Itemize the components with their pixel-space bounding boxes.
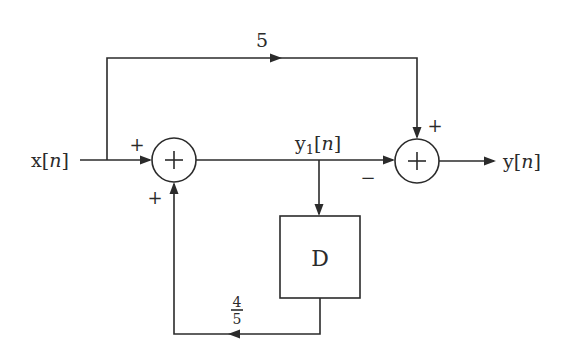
arrow-into-sum2-left bbox=[383, 156, 395, 165]
delay-block-label: D bbox=[311, 246, 329, 271]
summer-2 bbox=[395, 139, 439, 183]
sum1-input-sign-bottom: + bbox=[147, 187, 162, 208]
feedback-gain-label: 4 5 bbox=[231, 294, 243, 327]
feedforward-arrow bbox=[270, 54, 282, 63]
feedback-arrow bbox=[228, 330, 240, 339]
output-arrow bbox=[484, 157, 496, 166]
feedforward-path bbox=[107, 58, 417, 160]
sum2-input-sign-top: + bbox=[427, 115, 442, 136]
input-label: x[n] bbox=[31, 149, 69, 171]
arrow-into-delay bbox=[315, 204, 324, 216]
sum1-input-sign-top: + bbox=[129, 134, 144, 155]
arrow-into-sum2-top bbox=[413, 127, 422, 139]
feedback-gain-denominator: 5 bbox=[233, 311, 242, 327]
arrow-into-sum1 bbox=[140, 156, 152, 165]
feedback-gain-numerator: 4 bbox=[233, 294, 242, 310]
sum2-input-sign-left: − bbox=[360, 167, 375, 188]
intermediate-label: y1[n] bbox=[294, 132, 341, 157]
arrow-into-sum1-bottom bbox=[170, 182, 179, 194]
summer-1 bbox=[152, 138, 196, 182]
feedforward-gain-label: 5 bbox=[256, 29, 268, 51]
block-diagram: x[n] 5 + + y1[n] − + y[n] D 4 bbox=[0, 0, 565, 361]
output-label: y[n] bbox=[502, 150, 541, 172]
